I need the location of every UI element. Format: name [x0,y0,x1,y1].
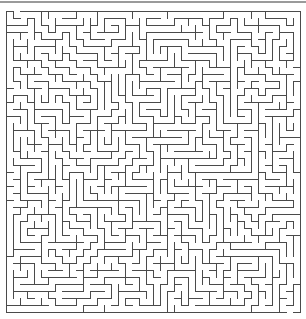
maze-walls [7,12,301,313]
maze-grid [0,0,306,319]
